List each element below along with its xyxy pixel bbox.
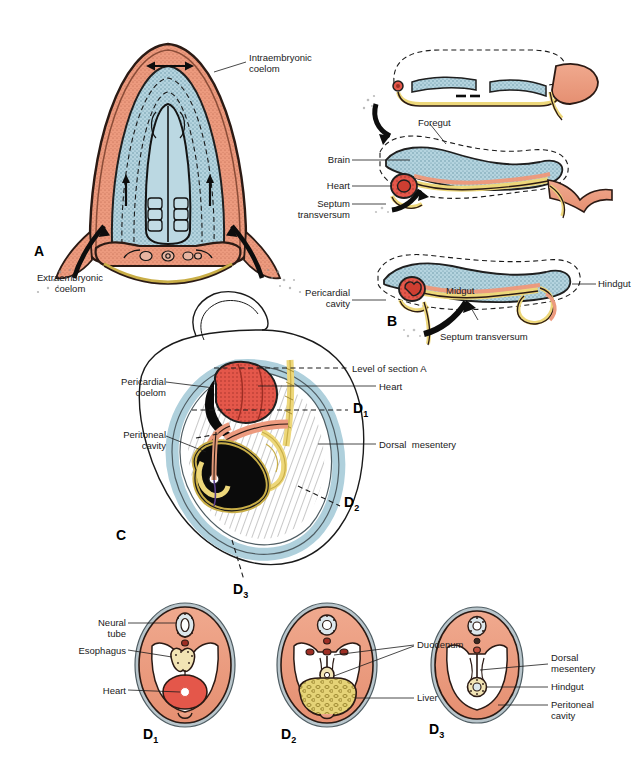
label-peritoneal-cavity-c: Peritoneal cavity (74, 429, 166, 451)
label-septum-transversum-b: Septum transversum (440, 331, 528, 342)
d-sub: 1 (363, 409, 368, 419)
panel-mid-right-artwork (352, 124, 612, 218)
label-heart-mid: Heart (292, 180, 350, 191)
label-duodenum: Duodenum (417, 639, 463, 650)
label-dorsal-mesentery-d3: Dorsal mesentery (551, 652, 595, 674)
label-heart-d1: Heart (56, 685, 126, 696)
d-sub: 2 (354, 503, 359, 513)
section-level-d2-c: D2 (344, 494, 359, 513)
label-esophagus: Esophagus (46, 645, 126, 656)
panel-letter-c: C (116, 527, 126, 543)
panel-letter-d3: D3 (429, 721, 444, 740)
d-sub: 3 (243, 590, 248, 600)
panel-letter-b: B (387, 313, 397, 329)
label-neural-tube: Neural tube (56, 617, 126, 639)
d-letter: D (233, 581, 243, 597)
d-sub: 1 (153, 735, 158, 745)
d-letter: D (429, 721, 439, 737)
label-brain: Brain (292, 154, 350, 165)
panel-letter-a: A (34, 243, 44, 259)
label-pericardial-coelom: Pericardial coelom (74, 376, 166, 398)
label-foregut: Foregut (418, 117, 451, 128)
d-sub: 3 (439, 730, 444, 740)
panel-d2-artwork (277, 603, 414, 727)
panel-letter-d2: D2 (281, 726, 296, 745)
label-pericardial-cavity: Pericardial cavity (288, 287, 350, 309)
d-letter: D (353, 400, 363, 416)
label-midgut: Midgut (446, 285, 475, 296)
label-septum-transversum-mid: Septum transversum (278, 198, 350, 220)
label-liver: Liver (417, 692, 438, 703)
label-intraembryonic-coelom: Intraembryonic coelom (249, 52, 312, 74)
d-sub: 2 (291, 735, 296, 745)
section-level-d1-c: D1 (353, 400, 368, 419)
label-peritoneal-cavity-d3: Peritoneal cavity (551, 699, 594, 721)
label-heart-c: Heart (379, 381, 402, 392)
panel-d1-artwork (128, 603, 235, 727)
label-hindgut-d3: Hindgut (551, 681, 584, 692)
d-letter: D (143, 726, 153, 742)
panel-top-right-artwork (363, 50, 598, 145)
label-dorsal-mesentery-c: Dorsal mesentery (379, 439, 456, 450)
label-level-of-section-a: Level of section A (352, 363, 426, 374)
d-letter: D (344, 494, 354, 510)
d-letter: D (281, 726, 291, 742)
embryology-figure: Intraembryonic coelom A Extraembryonic c… (0, 0, 633, 777)
panel-a-artwork (37, 44, 301, 293)
panel-d3-artwork (431, 607, 548, 723)
section-level-d3-c: D3 (233, 581, 248, 600)
label-hindgut-b: Hindgut (598, 278, 631, 289)
panel-c-artwork (139, 292, 376, 580)
panel-letter-d1: D1 (143, 726, 158, 745)
label-extraembryonic-coelom: Extraembryonic coelom (10, 272, 130, 294)
